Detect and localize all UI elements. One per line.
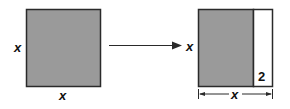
- left-square: [27, 10, 101, 87]
- left-square-bottom-label: x: [59, 89, 66, 102]
- diagram-canvas: x x x 2 x: [0, 0, 290, 109]
- right-rect-width-label: x: [231, 88, 238, 101]
- right-shaded-region: [199, 10, 254, 87]
- strip-width-label: 2: [258, 70, 265, 83]
- diagram-graphics: [0, 0, 290, 109]
- left-square-side-label: x: [14, 41, 21, 54]
- right-rect-side-label: x: [186, 40, 193, 53]
- transform-arrow-icon: [109, 42, 182, 50]
